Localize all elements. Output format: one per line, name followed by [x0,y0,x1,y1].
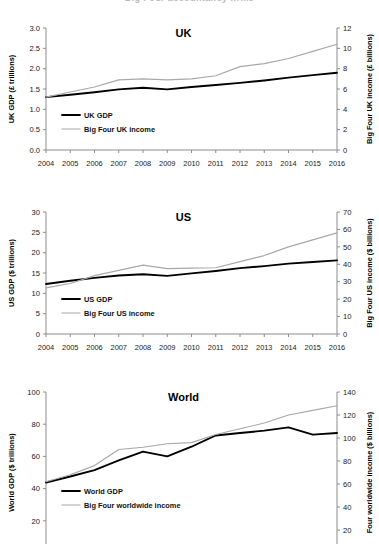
x-tick-label: 2012 [232,159,248,168]
y-tick-label-right: 60 [343,225,351,234]
chart-svg-us: 0510152025300102030405060702004200520062… [0,194,379,364]
x-tick-label: 2008 [135,159,151,168]
x-tick-label: 2004 [38,159,54,168]
y-tick-label-right: 8 [343,64,347,73]
y-tick-label-left: 30 [32,208,40,217]
y-tick-label-left: 0 [36,330,40,339]
y-tick-label-left: 2.0 [29,64,40,73]
x-tick-label: 2008 [135,343,151,352]
y-tick-label-left: 1.5 [29,85,40,94]
y-tick-label-left: 10 [32,289,40,298]
y-tick-label-right: 12 [343,24,351,33]
y-tick-label-left: 5 [36,309,40,318]
legend-label-income: Big Four UK income [84,125,155,134]
legend-label-income: Big Four worldwide income [84,501,181,510]
y-tick-label-right: 40 [343,503,351,512]
panel-title-UK: UK [176,27,192,39]
x-tick-label: 2006 [86,159,102,168]
y-tick-label-left: 0.0 [29,146,40,155]
x-tick-label: 2007 [111,343,127,352]
series-line-world-gdp [46,427,337,482]
y-tick-label-right: 120 [343,411,356,420]
x-tick-label: 2012 [232,343,248,352]
y-tick-label-left: 15 [32,269,40,278]
y-tick-label-left: 100 [27,388,40,397]
series-line-uk-gdp [46,73,337,97]
x-tick-label: 2010 [183,159,199,168]
x-tick-label: 2014 [280,159,296,168]
x-tick-label: 2004 [38,343,54,352]
x-tick-label: 2014 [280,343,296,352]
x-tick-label: 2009 [159,159,175,168]
y-tick-label-right: 60 [343,480,351,489]
x-tick-label: 2010 [183,343,199,352]
figure-canvas: Big Four accountancy firms 0.00.51.01.52… [0,0,379,544]
y-tick-label-right: 20 [343,295,351,304]
y-axis-title-right: Big Four UK income (£ billions) [365,33,374,144]
series-line-big-four-worldwide-income [46,406,337,482]
legend-label-gdp: UK GDP [84,111,113,120]
y-tick-label-right: 0 [343,330,347,339]
y-tick-label-left: 60 [32,452,40,461]
y-tick-label-left: 25 [32,228,40,237]
x-tick-label: 2015 [305,159,321,168]
x-tick-label: 2007 [111,159,127,168]
chart-panel-us: 0510152025300102030405060702004200520062… [0,194,379,364]
y-axis-title-right: Four worldwide income ($ billions) [365,411,374,533]
panel-title-World: World [168,391,199,403]
x-tick-label: 2005 [62,343,78,352]
figure-title-clipped: Big Four accountancy firms [0,0,379,3]
y-axis-title-left: US GDP ($ trillions) [7,238,16,307]
x-tick-label: 2013 [256,159,272,168]
y-tick-label-right: 70 [343,208,351,217]
x-tick-label: 2006 [86,343,102,352]
x-tick-label: 2011 [208,159,224,168]
y-tick-label-right: 10 [343,44,351,53]
x-tick-label: 2016 [329,343,345,352]
y-axis-title-left: World GDP ($ trillions) [7,433,16,512]
chart-svg-uk: 0.00.51.01.52.02.53.00246810122004200520… [0,14,379,184]
y-tick-label-left: 2.5 [29,44,40,53]
x-tick-label: 2015 [305,343,321,352]
x-tick-label: 2009 [159,343,175,352]
y-tick-label-right: 140 [343,388,356,397]
y-tick-label-left: 20 [32,517,40,526]
y-tick-label-right: 30 [343,277,351,286]
y-tick-label-right: 10 [343,312,351,321]
chart-svg-world: 2040608010020406080100120140World GDP ($… [0,378,379,544]
y-tick-label-right: 80 [343,457,351,466]
series-line-big-four-us-income [46,233,337,288]
y-tick-label-left: 80 [32,420,40,429]
y-tick-label-right: 0 [343,146,347,155]
y-tick-label-right: 6 [343,85,347,94]
x-tick-label: 2005 [62,159,78,168]
y-tick-label-right: 20 [343,526,351,535]
series-line-us-gdp [46,260,337,284]
legend-label-gdp: US GDP [84,295,112,304]
series-line-big-four-uk-income [46,44,337,97]
y-tick-label-left: 40 [32,484,40,493]
y-tick-label-right: 50 [343,243,351,252]
y-tick-label-right: 4 [343,105,347,114]
y-tick-label-right: 100 [343,434,356,443]
y-tick-label-right: 40 [343,260,351,269]
chart-panel-uk: 0.00.51.01.52.02.53.00246810122004200520… [0,14,379,184]
chart-panel-world: 2040608010020406080100120140World GDP ($… [0,378,379,544]
y-tick-label-left: 20 [32,248,40,257]
x-tick-label: 2013 [256,343,272,352]
panel-title-US: US [176,211,191,223]
x-tick-label: 2011 [208,343,224,352]
legend-label-gdp: World GDP [84,487,123,496]
y-axis-title-left: UK GDP (£ trillions) [7,54,16,123]
x-tick-label: 2016 [329,159,345,168]
legend-label-income: Big Four US income [84,309,155,318]
y-axis-title-right: Big Four US income ($ billions) [365,218,374,328]
y-tick-label-left: 3.0 [29,24,40,33]
y-tick-label-right: 2 [343,125,347,134]
y-tick-label-left: 0.5 [29,125,40,134]
y-tick-label-left: 1.0 [29,105,40,114]
